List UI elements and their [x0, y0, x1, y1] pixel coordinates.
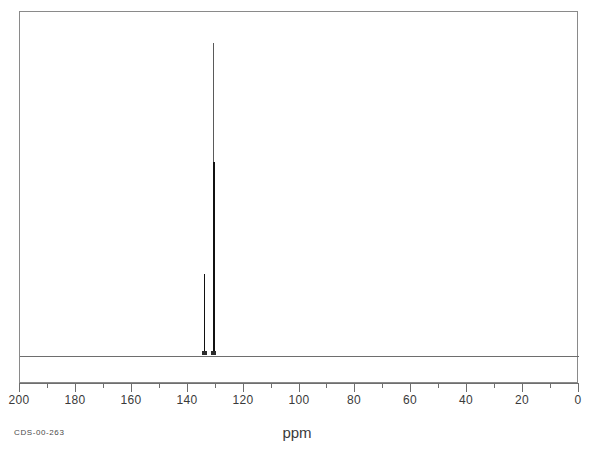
- x-axis-tick-label: 0: [575, 393, 582, 407]
- x-axis-minor-tick: [494, 383, 495, 388]
- x-axis-minor-tick: [326, 383, 327, 388]
- x-axis-tick-label: 20: [515, 393, 529, 407]
- x-axis-tick-label: 160: [121, 393, 142, 407]
- x-axis-minor-tick: [47, 383, 48, 388]
- x-axis-tick-label: 100: [289, 393, 310, 407]
- x-axis-major-tick: [578, 383, 579, 392]
- x-axis-major-tick: [131, 383, 132, 392]
- x-axis-tick-label: 140: [177, 393, 198, 407]
- x-axis-major-tick: [466, 383, 467, 392]
- x-axis-major-tick: [75, 383, 76, 392]
- x-axis-major-tick: [354, 383, 355, 392]
- x-axis-tick-label: 60: [403, 393, 417, 407]
- x-axis-tick-label: 40: [459, 393, 473, 407]
- spectrum-peak-base: [211, 351, 216, 355]
- x-axis-major-tick: [299, 383, 300, 392]
- spectrum-peak-tip: [213, 43, 214, 162]
- x-axis: 200180160140120100806040200: [19, 383, 578, 397]
- x-axis-minor-tick: [438, 383, 439, 388]
- x-axis-tick-label: 200: [9, 393, 30, 407]
- x-axis-minor-tick: [215, 383, 216, 388]
- x-axis-major-tick: [522, 383, 523, 392]
- x-axis-minor-tick: [550, 383, 551, 388]
- x-axis-major-tick: [19, 383, 20, 392]
- plot-frame: [19, 11, 578, 383]
- x-axis-major-tick: [187, 383, 188, 392]
- x-axis-major-tick: [410, 383, 411, 392]
- x-axis-major-tick: [243, 383, 244, 392]
- x-axis-title: ppm: [282, 424, 311, 441]
- x-axis-tick-label: 120: [233, 393, 254, 407]
- x-axis-tick-label: 180: [65, 393, 86, 407]
- spectrum-peak: [213, 162, 215, 355]
- x-axis-minor-tick: [382, 383, 383, 388]
- sample-id-label: CDS-00-263: [14, 428, 64, 437]
- x-axis-minor-tick: [271, 383, 272, 388]
- x-axis-minor-tick: [103, 383, 104, 388]
- spectrum-peak: [204, 274, 205, 355]
- x-axis-tick-label: 80: [347, 393, 361, 407]
- nmr-spectrum-viewer: 200180160140120100806040200 CDS-00-263 p…: [0, 0, 589, 457]
- spectrum-peak-base: [202, 351, 207, 355]
- x-axis-minor-tick: [159, 383, 160, 388]
- spectrum-baseline: [20, 356, 579, 357]
